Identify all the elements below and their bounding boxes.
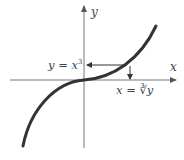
y-axis-label: y: [90, 5, 98, 19]
x-axis-label: x: [170, 60, 177, 74]
equation-label: y = x3: [47, 58, 82, 72]
cube-function-diagram: y x y = x3 x = ∛y: [0, 0, 184, 160]
inverse-label: x = ∛y: [116, 83, 154, 97]
